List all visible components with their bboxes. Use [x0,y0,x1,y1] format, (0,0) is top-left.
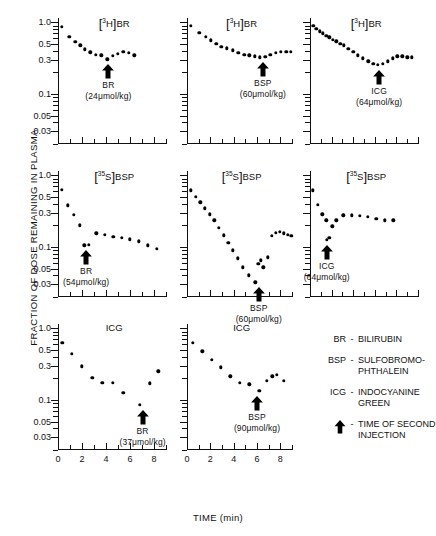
injection-annotation: BR(37μmol/kg) [120,426,166,447]
injection-dose-label: (90μmol/kg) [234,423,280,433]
y-tick [305,182,310,183]
chart-panel-r3c2: 02468ICGBSP(90μmol/kg) [187,324,292,450]
x-tick [58,137,59,144]
chart-panel-r2c3: [35S]BSPICG(64μmol/kg) [310,171,418,297]
data-point [242,53,245,56]
y-tick [305,258,310,259]
y-tick-label: 0.1 [38,242,51,252]
injection-dose-label: (37μmol/kg) [120,437,166,447]
y-tick [53,122,58,123]
y-tick [51,400,58,401]
y-tick [51,22,58,23]
data-point [116,52,119,55]
data-point [237,51,240,54]
y-tick [305,101,310,102]
legend-row: -TIME OF SECONDINJECTION [316,419,436,442]
x-tick [130,290,131,297]
data-point [208,213,211,216]
data-point [248,383,251,386]
x-tick [222,139,223,144]
y-tick [303,213,310,214]
y-tick [180,175,187,176]
y-tick [53,182,58,183]
y-tick [182,29,187,30]
data-point [99,54,102,57]
x-axis-line [187,449,292,450]
x-axis-line [187,296,292,297]
y-tick [53,450,58,451]
y-tick [53,26,58,27]
data-point [105,58,108,61]
x-tick [292,445,293,450]
data-point [269,53,272,56]
data-point [78,43,81,46]
data-point [111,54,114,57]
injection-agent-label: ICG [356,86,402,96]
data-point [60,188,63,191]
y-tick-label: 0.5 [38,39,51,49]
data-point [87,243,90,246]
data-point [227,241,230,244]
y-tick [53,378,58,379]
chart-panel-r3c1: 0.030.050.10.30.51.002468ICGBR(37μmol/kg… [58,324,166,450]
data-point [231,249,234,252]
x-tick [70,445,71,450]
y-tick [303,247,310,248]
data-point [375,217,378,220]
panel-title-r1c3: [3H]BR [351,16,382,31]
y-tick-label: 1.0 [38,17,51,27]
y-tick [305,186,310,187]
x-tick [58,290,59,297]
y-tick [182,407,187,408]
y-tick [53,339,58,340]
x-tick [222,445,223,450]
x-tick [106,290,107,297]
y-tick [53,179,58,180]
y-tick [305,110,310,111]
y-tick [305,29,310,30]
legend-abbr: ICG [316,387,346,397]
x-tick [245,445,246,450]
y-tick [305,254,310,255]
data-point [120,236,123,239]
data-point [60,25,63,28]
data-point [74,40,77,43]
y-tick [305,51,310,52]
data-point [199,201,202,204]
data-point [258,389,261,392]
x-tick [280,443,281,450]
data-point [342,214,345,217]
panel-title-r3c1: ICG [106,322,123,333]
data-point [391,57,394,60]
y-tick [182,144,187,145]
x-tick-label: 4 [231,454,236,464]
data-point [198,31,201,34]
x-tick [332,137,333,144]
data-point [146,244,149,247]
y-tick [305,250,310,251]
y-tick [305,72,310,73]
data-point [70,352,73,355]
y-tick [180,116,187,117]
y-tick [303,60,310,61]
y-tick [182,344,187,345]
y-tick [180,366,187,367]
x-tick [118,292,119,297]
legend-text: INDOCYANINEGREEN [358,387,436,410]
y-tick [53,428,58,429]
injection-dose-label: (54μmol/kg) [63,277,109,287]
data-point [289,50,292,53]
x-tick [310,290,311,297]
x-tick [396,290,397,297]
y-tick-label: 0.03 [33,126,51,136]
y-tick [182,186,187,187]
y-tick [51,213,58,214]
legend-text-line: BILIRUBIN [358,334,436,346]
y-tick [51,437,58,438]
x-tick-label: 8 [151,454,156,464]
y-tick [182,254,187,255]
legend-text: BILIRUBIN [358,334,436,346]
data-point [258,56,261,59]
data-point [351,50,354,53]
y-tick-label: 1.0 [38,170,51,180]
